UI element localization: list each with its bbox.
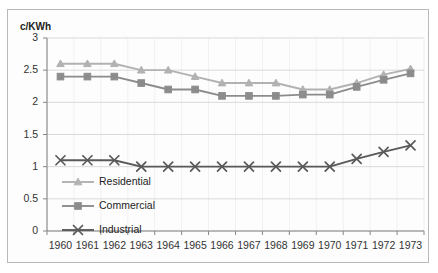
x-tick-label: 1971 [342,239,372,251]
data-point [84,73,91,80]
x-tick-label: 1964 [153,239,183,251]
data-point [111,73,118,80]
legend-marker-square [75,203,82,210]
data-point [219,93,226,100]
x-tick-label: 1970 [315,239,345,251]
x-tick-label: 1968 [261,239,291,251]
line-chart [0,0,438,273]
data-point [165,86,172,93]
x-tick-label: 1967 [234,239,264,251]
x-tick-label: 1965 [180,239,210,251]
x-tick-label: 1973 [396,239,426,251]
y-tick-label: 1.5 [8,128,38,140]
legend-markers [62,178,94,234]
y-tick-label: 0 [8,224,38,236]
data-point [380,77,387,84]
legend-label-residential: Residential [99,175,151,187]
x-tick-label: 1966 [207,239,237,251]
x-tick-label: 1963 [126,239,156,251]
legend-item-commercial[interactable] [62,203,94,210]
x-tick-label: 1960 [45,239,75,251]
legend-label-industrial: Industrial [99,223,142,235]
y-tick-label: 3 [8,31,38,43]
legend-item-industrial[interactable] [62,226,94,235]
data-point [407,70,414,77]
data-point [353,84,360,91]
data-point [246,93,253,100]
y-tick-label: 2.5 [8,63,38,75]
legend-label-commercial: Commercial [99,199,155,211]
data-point [192,86,199,93]
data-point [326,91,333,98]
legend-item-residential[interactable] [62,178,94,185]
data-point [57,73,64,80]
x-tick-label: 1972 [369,239,399,251]
data-point [138,80,145,87]
y-tick-label: 2 [8,95,38,107]
y-tick-label: 0.5 [8,192,38,204]
y-tick-label: 1 [8,160,38,172]
x-tick-label: 1962 [99,239,129,251]
data-point [300,91,307,98]
data-point [273,93,280,100]
x-tick-label: 1961 [72,239,102,251]
x-tick-label: 1969 [288,239,318,251]
